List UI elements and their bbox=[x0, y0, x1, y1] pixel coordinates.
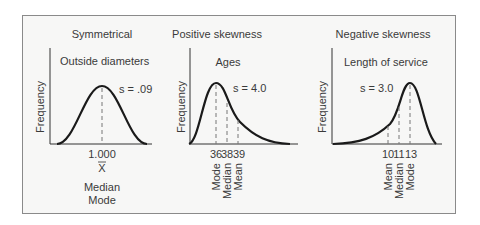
panel-title: Negative skewness bbox=[336, 28, 431, 40]
stat-label: Mode bbox=[88, 194, 116, 206]
tick-label: 11 bbox=[393, 148, 404, 160]
panel-title: Positive skewness bbox=[172, 28, 262, 40]
panel-subtitle: Length of service bbox=[344, 56, 428, 68]
y-axis-label: Frequency bbox=[316, 81, 328, 133]
s-label: s = 4.0 bbox=[233, 82, 266, 94]
panel-title: Symmetrical bbox=[72, 28, 133, 40]
tick-label: 10 bbox=[382, 148, 394, 160]
panel-negative-skewness: Negative skewness Length of service Freq… bbox=[316, 28, 442, 199]
stat-label: Mean bbox=[232, 163, 244, 191]
y-axis-label: Frequency bbox=[175, 81, 187, 133]
tick-label: 1.000 bbox=[88, 148, 116, 160]
s-label: s = .09 bbox=[119, 83, 152, 95]
skewness-figure: Symmetrical Outside diameters Frequency … bbox=[0, 0, 480, 225]
tick-label: 13 bbox=[405, 148, 417, 160]
tick-label: 39 bbox=[233, 148, 245, 160]
xbar-symbol: X bbox=[98, 162, 106, 174]
panel-subtitle: Ages bbox=[215, 56, 241, 68]
s-label: s = 3.0 bbox=[360, 82, 393, 94]
tick-label: 38 bbox=[221, 148, 233, 160]
panel-positive-skewness: Positive skewness Ages Frequency s = 4.0… bbox=[172, 28, 298, 199]
stat-label: Mode bbox=[404, 163, 416, 191]
stat-label: Median bbox=[84, 181, 120, 193]
y-axis-label: Frequency bbox=[34, 81, 46, 133]
panel-symmetrical: Symmetrical Outside diameters Frequency … bbox=[34, 28, 152, 206]
panel-subtitle: Outside diameters bbox=[60, 55, 150, 67]
